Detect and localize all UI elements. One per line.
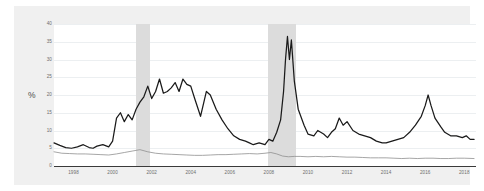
plot-area (54, 24, 476, 166)
x-axis-line (54, 166, 476, 167)
y-tick-label: 30 (20, 57, 52, 62)
y-tick-label: 15 (20, 110, 52, 115)
x-tick-label: 2010 (288, 170, 328, 175)
x-tick-label: 2012 (327, 170, 367, 175)
y-tick-label: 5 (20, 145, 52, 150)
y-tick-label: 10 (20, 128, 52, 133)
series-secondary-line (54, 150, 474, 159)
y-tick-label: 40 (20, 21, 52, 26)
x-tick-label: 2018 (444, 170, 484, 175)
y-tick-label: 25 (20, 74, 52, 79)
y-tick-label: 20 (20, 92, 52, 97)
x-tick-label: 2006 (210, 170, 250, 175)
y-tick-label: 35 (20, 39, 52, 44)
chart-card: % 0510152025303540 199820002002200420062… (14, 6, 470, 185)
x-tick-label: 2000 (93, 170, 133, 175)
y-tick-label: 0 (20, 163, 52, 168)
x-tick-label: 2016 (405, 170, 445, 175)
series-primary-line (54, 36, 474, 148)
series-layer (54, 24, 476, 166)
x-tick-label: 1998 (54, 170, 94, 175)
x-tick-label: 2008 (249, 170, 289, 175)
y-axis-ticks: 0510152025303540 (14, 6, 52, 185)
x-tick-label: 2002 (132, 170, 172, 175)
x-tick-label: 2014 (366, 170, 406, 175)
x-tick-label: 2004 (171, 170, 211, 175)
